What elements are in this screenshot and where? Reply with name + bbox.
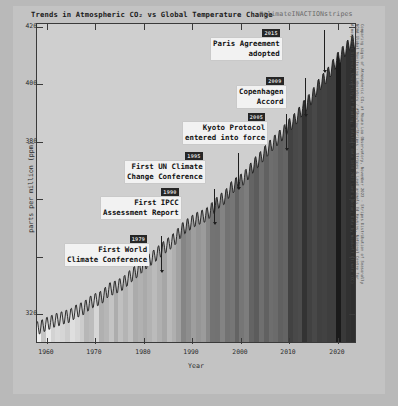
annotation-year-badge: 2009 [266, 77, 283, 85]
x-tick-label: 2020 [329, 348, 344, 356]
annotation-leader-line [214, 189, 215, 224]
annotation-line-2: Accord [257, 97, 284, 106]
chart-figure: Trends in Atmospheric CO₂ vs Global Temp… [13, 6, 385, 394]
annotation-paris-agreement: 2015 Paris Agreementadopted [211, 38, 282, 60]
annotation-label: Paris Agreementadopted [211, 38, 282, 60]
annotation-label: First IPCCAssessment Report [101, 197, 181, 219]
x-tick-label: 1980 [135, 348, 150, 356]
annotation-line-2: Climate Conference [67, 255, 147, 264]
annotation-line-2: adopted [249, 49, 280, 58]
annotation-leader-line [286, 114, 287, 150]
annotation-line-1: Paris Agreement [213, 39, 280, 48]
annotation-year-badge: 1990 [161, 188, 178, 196]
annotation-first-world-climate-conference: 1979 First WorldClimate Conference [65, 244, 149, 266]
annotation-leader-line [305, 78, 306, 116]
x-tick-label: 2000 [232, 348, 247, 356]
annotation-line-1: First IPCC [134, 198, 179, 207]
annotation-year-badge: 2005 [248, 113, 265, 121]
y-axis-label: parts per million (ppm) [27, 127, 35, 247]
annotation-leader-line [161, 236, 162, 272]
annotation-first-ipcc-report: 1990 First IPCCAssessment Report [101, 197, 181, 219]
annotation-label: Kyoto Protocolentered into force [183, 122, 267, 144]
annotation-label: CopenhagenAccord [237, 86, 286, 108]
credits-line-3: Atmospheric Science, University of Readi… [350, 24, 355, 342]
y-tick-label: 420 [25, 22, 37, 30]
annotation-copenhagen-accord: 2009 CopenhagenAccord [237, 86, 286, 108]
annotation-kyoto-protocol: 2005 Kyoto Protocolentered into force [183, 122, 267, 144]
x-tick-label: 1970 [86, 348, 101, 356]
annotation-line-1: Copenhagen [239, 87, 284, 96]
x-tick-label: 2010 [280, 348, 295, 356]
annotation-line-1: Kyoto Protocol [203, 123, 265, 132]
credits-text: Comparing signs of Atmospheric CO₂ at Ma… [350, 24, 365, 342]
annotation-year-badge: 1979 [130, 235, 147, 243]
annotation-leader-line [238, 153, 239, 189]
annotation-leader-line [324, 30, 325, 72]
x-tick-label: 1960 [38, 348, 53, 356]
annotation-label: First UN ClimateChange Conference [125, 161, 205, 183]
annotation-line-1: First UN Climate [131, 162, 202, 171]
credits-line-1: Comparing signs of Atmospheric CO₂ at Ma… [360, 24, 365, 342]
annotation-line-1: First World [98, 245, 147, 254]
annotation-line-2: entered into force [185, 133, 265, 142]
co2-curve-mask [36, 23, 356, 343]
y-tick-label: 320 [25, 309, 37, 317]
annotation-label: First WorldClimate Conference [65, 244, 149, 266]
x-tick-label: 1990 [183, 348, 198, 356]
annotation-line-2: Change Conference [127, 172, 203, 181]
y-tick-label: 400 [25, 79, 37, 87]
hashtag-label: #climateINACTIONstripes [259, 10, 353, 18]
annotation-year-badge: 1995 [185, 152, 202, 160]
annotation-line-2: Assessment Report [103, 208, 179, 217]
plot-area [36, 23, 356, 343]
annotation-year-badge: 2015 [262, 29, 279, 37]
annotation-first-un-climate-conference: 1995 First UN ClimateChange Conference [125, 161, 205, 183]
page-title: Trends in Atmospheric CO₂ vs Global Temp… [31, 10, 273, 19]
x-axis-label: Year [36, 362, 356, 370]
credits-line-2: NOAA Global Monitoring Laboratory / #Sho… [355, 24, 360, 342]
